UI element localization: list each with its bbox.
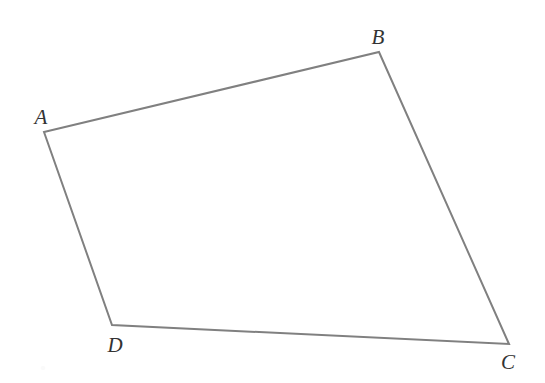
scan-speck-artifact bbox=[41, 366, 46, 370]
vertex-label-b: B bbox=[372, 27, 385, 48]
vertex-label-d: D bbox=[107, 335, 122, 356]
vertex-label-a: A bbox=[35, 107, 48, 128]
figure-canvas: A B C D bbox=[0, 0, 545, 383]
vertex-label-c: C bbox=[501, 352, 515, 373]
quadrilateral-diagram bbox=[0, 0, 545, 383]
quadrilateral-outline bbox=[44, 52, 509, 344]
